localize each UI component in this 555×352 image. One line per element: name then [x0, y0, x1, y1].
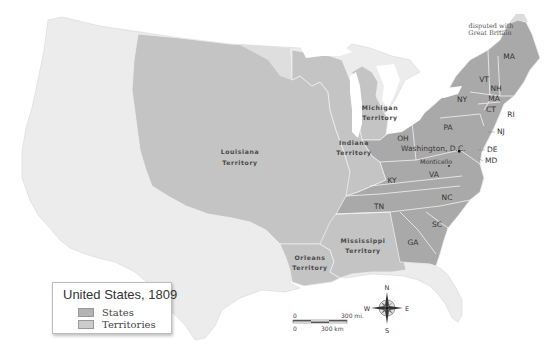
monticello-label: Monticello	[420, 158, 452, 165]
legend-title: United States, 1809	[63, 287, 177, 302]
svg-text:W: W	[364, 305, 371, 313]
state-label-ny: NY	[457, 95, 468, 104]
state-label-nh: NH	[490, 84, 501, 93]
disputed-annotation-line2: Great Britain	[468, 29, 511, 37]
legend-item-states: States	[78, 307, 134, 318]
svg-text:300 mi.: 300 mi.	[341, 312, 364, 319]
state-label-sc: SC	[432, 220, 442, 229]
svg-text:N: N	[385, 284, 390, 292]
legend-label-states: States	[102, 307, 134, 318]
states-swatch	[78, 308, 94, 317]
state-label-md: MD	[485, 156, 497, 165]
state-label-ri: RI	[507, 110, 514, 119]
louisiana-territory-label-2: Territory	[222, 159, 258, 167]
state-label-pa: PA	[443, 123, 453, 132]
legend-item-territories: Territories	[78, 319, 156, 330]
washington-dc-label: Washington, D.C.	[401, 144, 466, 153]
state-label-nj: NJ	[497, 127, 505, 136]
state-label-ct: CT	[486, 105, 496, 114]
svg-text:E: E	[405, 305, 409, 313]
svg-text:S: S	[385, 327, 389, 335]
svg-text:0: 0	[293, 312, 297, 319]
state-label-oh: OH	[397, 134, 409, 143]
svg-text:300 km: 300 km	[321, 325, 344, 332]
territories-swatch	[78, 320, 94, 329]
state-label-tn: TN	[373, 202, 384, 211]
michigan-territory-label-2: Territory	[362, 114, 398, 122]
state-label-ky: KY	[387, 176, 397, 185]
scale-bar: 0 300 mi. 0 300 km	[293, 312, 364, 332]
monticello-marker	[448, 165, 450, 167]
state-label-ma-maine: MA	[503, 52, 515, 61]
louisiana-territory-label: Louisiana	[221, 148, 260, 155]
map-legend: United States, 1809 States Territories	[52, 282, 172, 334]
mississippi-territory-label: Mississippi	[341, 237, 386, 245]
state-label-ga: GA	[408, 238, 420, 247]
state-label-de: DE	[487, 145, 498, 154]
michigan-territory-label: Michigan	[362, 104, 398, 112]
orleans-territory-label: Orleans	[294, 254, 325, 261]
compass-rose-icon: N S E W	[364, 284, 409, 335]
washington-dc-marker	[458, 150, 461, 153]
orleans-territory-label-2: Territory	[292, 264, 328, 272]
state-label-vt: VT	[479, 75, 489, 84]
state-label-nc: NC	[442, 193, 453, 202]
state-label-va: VA	[429, 170, 440, 179]
indiana-territory-label: Indiana	[339, 139, 369, 146]
svg-text:0: 0	[293, 325, 297, 332]
mississippi-territory-label-2: Territory	[345, 247, 381, 255]
indiana-territory-label-2: Territory	[336, 149, 372, 157]
state-label-ma: MA	[488, 94, 500, 103]
legend-label-territories: Territories	[102, 319, 156, 330]
